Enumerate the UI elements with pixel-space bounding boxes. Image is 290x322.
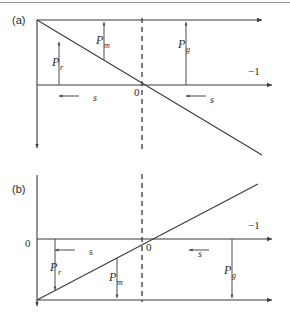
panel-b-marker-pr-base: P (49, 260, 58, 274)
panel-a-origin-label: 0 (134, 86, 140, 98)
panel-a-marker-pr-sub: r (60, 63, 64, 72)
panel-a (37, 18, 272, 155)
panel-b-left-axis-label: 0 (25, 237, 31, 249)
panel-b-marker-pm-sub: m (117, 278, 123, 287)
panel-b-marker-pm-base: P (108, 270, 117, 284)
panel-b-shift-label-left: s (89, 246, 93, 257)
panel-b-origin-label: 0 (146, 241, 152, 253)
panel-b-marker-pr-sub: r (58, 268, 62, 277)
panel-a-marker-pg-base: P (177, 37, 186, 51)
panel-b-marker-pg-base: P (223, 263, 232, 277)
panel-b-shift-label-right: s (198, 248, 202, 259)
figure-container: (a) −1 0 s s P r P m P g (b) −1 0 0 s s … (0, 0, 290, 322)
panel-a-marker-pm-base: P (95, 33, 104, 47)
panel-b-marker-pg-label: P g (223, 263, 236, 280)
panel-b-marker-pm-label: P m (108, 270, 123, 287)
panel-a-marker-pm-label: P m (95, 33, 110, 50)
panel-a-marker-pg-label: P g (177, 37, 190, 54)
panel-a-marker-pr-base: P (51, 55, 60, 69)
panel-a-shift-label-left: s (93, 92, 97, 103)
panel-a-marker-pr-label: P r (51, 55, 64, 72)
panel-b-right-axis-label: −1 (248, 219, 260, 231)
panel-a-right-axis-label: −1 (248, 65, 260, 77)
panel-b (37, 174, 272, 306)
panel-a-label: (a) (12, 14, 25, 26)
panel-a-shift-label-right: s (210, 94, 214, 105)
panel-b-label: (b) (12, 183, 25, 195)
panel-a-marker-pm-sub: m (104, 41, 110, 50)
panel-a-diagonal-line (37, 20, 262, 155)
panel-a-marker-pg-sub: g (186, 45, 190, 54)
panel-b-marker-pg-sub: g (232, 271, 236, 280)
figure-svg: (a) −1 0 s s P r P m P g (b) −1 0 0 s s … (0, 0, 290, 322)
